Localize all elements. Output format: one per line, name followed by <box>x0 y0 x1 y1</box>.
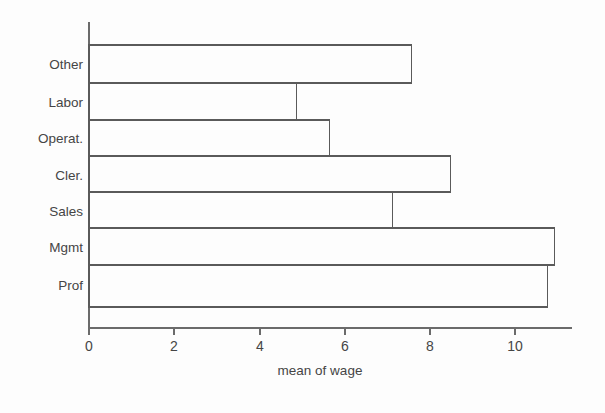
y-label-sales: Sales <box>49 204 83 219</box>
x-tick-label-10: 10 <box>507 338 523 354</box>
bar-labor[interactable] <box>89 83 297 120</box>
bar-prof[interactable] <box>89 265 547 307</box>
y-label-labor: Labor <box>48 95 83 110</box>
bar-mgmt[interactable] <box>89 228 555 265</box>
y-label-other: Other <box>49 57 83 72</box>
x-tick-label-4: 4 <box>256 338 264 354</box>
bar-chart: Other Labor Operat. Cler. Sales Mgmt Pro… <box>0 0 605 413</box>
bar-other[interactable] <box>89 45 411 83</box>
bar-cler[interactable] <box>89 156 451 192</box>
x-tick-label-6: 6 <box>341 338 349 354</box>
x-axis-title: mean of wage <box>278 363 363 378</box>
y-label-mgmt: Mgmt <box>49 240 83 255</box>
x-tick-label-8: 8 <box>426 338 434 354</box>
y-label-cler: Cler. <box>55 168 83 183</box>
x-tick-label-2: 2 <box>170 338 178 354</box>
y-label-operat: Operat. <box>38 131 83 146</box>
x-tick-label-0: 0 <box>85 338 93 354</box>
y-label-prof: Prof <box>58 278 83 293</box>
bar-operat[interactable] <box>89 120 330 156</box>
chart-container: Other Labor Operat. Cler. Sales Mgmt Pro… <box>0 0 605 413</box>
bar-sales[interactable] <box>89 192 392 228</box>
